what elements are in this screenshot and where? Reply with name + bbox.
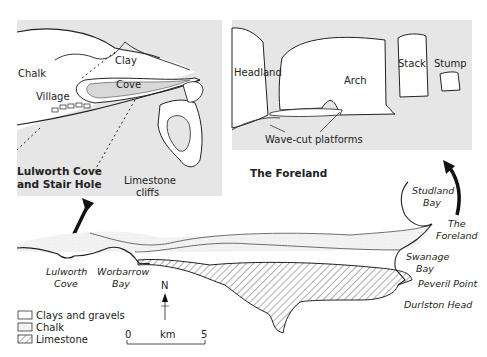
label-stump: Stump xyxy=(434,58,467,69)
legend-swatch-clays xyxy=(18,311,32,319)
legend-swatch-chalk xyxy=(18,323,32,331)
inset-title-foreland: The Foreland xyxy=(250,167,327,179)
legend-swatch-limestone xyxy=(18,335,32,343)
geology-map: Chalk Clay Cove Village Limestone cliffs… xyxy=(0,0,487,357)
place-worbarrow-1: Worbarrow xyxy=(97,266,150,277)
place-foreland-1: The xyxy=(448,218,466,229)
place-studland-2: Bay xyxy=(423,197,441,208)
legend-label-clays: Clays and gravels xyxy=(36,310,125,321)
lulworth-inset: Chalk Clay Cove Village Limestone cliffs… xyxy=(17,20,222,198)
label-arch: Arch xyxy=(344,75,367,86)
chalk-band xyxy=(17,224,432,252)
label-headland: Headland xyxy=(234,67,282,78)
north-arrow-icon: N xyxy=(161,280,169,320)
place-foreland-2: Foreland xyxy=(436,230,479,241)
label-wave-cut-platforms: Wave-cut platforms xyxy=(265,134,363,145)
label-village: Village xyxy=(36,91,70,102)
place-peveril-point: Peveril Point xyxy=(418,278,478,289)
label-limestone-cliffs-1: Limestone xyxy=(124,175,176,186)
place-lulworth-1: Lulworth xyxy=(46,266,87,277)
scale-start: 0 xyxy=(125,329,131,340)
place-swanage-2: Bay xyxy=(416,263,434,274)
place-worbarrow-2: Bay xyxy=(112,278,130,289)
scale-unit: km xyxy=(160,329,176,340)
legend-label-limestone: Limestone xyxy=(36,334,88,345)
place-lulworth-2: Cove xyxy=(54,278,78,289)
label-chalk: Chalk xyxy=(18,68,46,79)
place-durlston-head: Durlston Head xyxy=(404,299,473,310)
north-label: N xyxy=(161,280,168,291)
inset-title-lulworth-2: and Stair Hole xyxy=(17,178,102,190)
label-limestone-cliffs-2: cliffs xyxy=(136,187,159,198)
foreland-inset: Headland Arch Stack Stump Wave-cut platf… xyxy=(232,20,472,150)
place-swanage-1: Swanage xyxy=(406,251,449,262)
label-cove: Cove xyxy=(116,79,141,90)
inset-title-lulworth-1: Lulworth Cove xyxy=(17,165,102,177)
label-stack: Stack xyxy=(398,58,426,69)
legend-label-chalk: Chalk xyxy=(36,322,64,333)
scale-end: 5 xyxy=(201,329,207,340)
limestone-area xyxy=(138,259,412,333)
place-studland-1: Studland xyxy=(412,185,455,196)
legend: Clays and gravels Chalk Limestone xyxy=(18,310,125,345)
scale-bar: 0 km 5 xyxy=(125,329,207,344)
label-clay: Clay xyxy=(115,55,137,66)
